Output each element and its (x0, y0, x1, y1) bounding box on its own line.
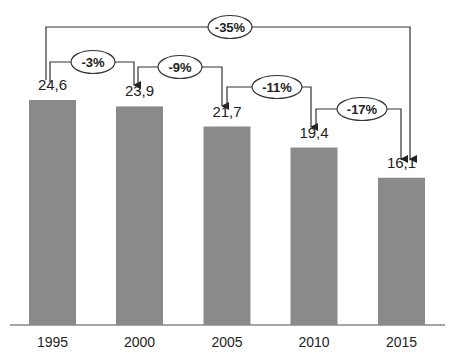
value-label: 23,9 (125, 82, 154, 99)
chart-canvas: 24,6199523,9200021,7200519,4201016,12015… (0, 0, 460, 361)
bar-2005 (204, 127, 251, 325)
change-percent: -35% (215, 20, 246, 35)
value-label: 19,4 (299, 124, 328, 141)
change-percent: -9% (168, 60, 192, 75)
change-percent: -11% (262, 80, 292, 95)
bar-chart: 24,6199523,9200021,7200519,4201016,12015… (0, 0, 460, 361)
x-tick-label: 2010 (298, 334, 329, 350)
bar-2010 (291, 148, 338, 325)
x-tick-label: 2000 (124, 334, 155, 350)
bar-1995 (29, 100, 76, 325)
x-tick-label: 1995 (37, 334, 68, 350)
change-percent: -3% (81, 55, 105, 70)
x-tick-label: 2015 (386, 334, 417, 350)
value-label: 24,6 (38, 76, 67, 93)
change-percent: -17% (347, 102, 378, 117)
bar-2015 (378, 178, 425, 325)
bar-2000 (116, 106, 163, 325)
x-tick-label: 2005 (211, 334, 242, 350)
